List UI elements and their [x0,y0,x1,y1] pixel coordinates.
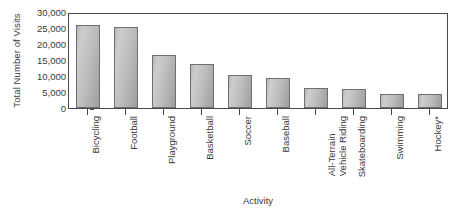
x-axis-category-label-line: Skateboarding [356,116,367,177]
x-axis-category-label: Playground [167,116,178,164]
bar-slot [411,14,449,108]
y-axis-tick-labels: 05,00010,00015,00020,00025,00030,000 [26,13,66,109]
x-axis-category-label: Skateboarding [357,116,368,177]
x-axis-tick-marks [68,109,448,115]
y-axis-tick-label: 0 [61,104,66,114]
x-axis-tick-mark [163,109,164,115]
x-axis-category-label-line: Basketball [204,116,215,160]
bar [190,64,214,108]
bar-slot [297,14,335,108]
x-axis-category-label: Swimming [395,116,406,160]
x-axis-category-label-line: Vehicle Riding [337,116,348,176]
bar [152,55,176,108]
x-axis-category-label: Hockey* [433,116,444,151]
bar [342,89,366,108]
x-axis-category-label: Soccer [243,116,254,146]
x-axis-category-label-line: Swimming [394,116,405,160]
bar [76,25,100,108]
x-axis-category-label-line: All-Terrain [326,133,337,176]
bar-slot [335,14,373,108]
x-axis-tick-mark [429,109,430,115]
x-axis-category-label: Baseball [281,116,292,152]
bar-slot [373,14,411,108]
bar [418,94,442,108]
bar-slot [107,14,145,108]
x-axis-tick-mark [239,109,240,115]
bar-chart: Total Number of Visits 05,00010,00015,00… [0,0,461,219]
x-axis-category-label-line: Soccer [242,116,253,146]
x-axis-category-label-line: Playground [166,116,177,164]
bar [114,27,138,108]
bar [228,75,252,108]
x-axis-category-label: Football [129,116,140,150]
x-axis-tick-mark [87,109,88,115]
x-axis-category-labels: BicyclingFootballPlaygroundBasketballSoc… [68,116,448,192]
x-axis-category-label: Bicycling [91,116,102,154]
x-axis-tick-mark [353,109,354,115]
bars-layer [69,14,447,108]
y-axis-tick-label: 25,000 [37,24,66,34]
x-axis-tick-mark [201,109,202,115]
bar [266,78,290,108]
y-axis-tick-label: 20,000 [37,40,66,50]
y-axis-tick-label: 30,000 [37,8,66,18]
y-axis-title: Total Number of Visits [11,1,22,121]
y-axis-tick-label: 10,000 [37,72,66,82]
bar-slot [145,14,183,108]
x-axis-tick-mark [125,109,126,115]
bar-slot [221,14,259,108]
x-axis-category-label: Basketball [205,116,216,160]
x-axis-category-label-line: Football [128,116,139,150]
y-axis-tick-label: 5,000 [42,88,66,98]
y-axis-tick-label: 15,000 [37,56,66,66]
x-axis-tick-mark [277,109,278,115]
x-axis-title: Activity [68,195,448,206]
bar-slot [69,14,107,108]
x-axis-category-label-line: Bicycling [90,116,101,154]
x-axis-category-label-line: Baseball [280,116,291,152]
x-axis-tick-mark [391,109,392,115]
bar [304,88,328,108]
x-axis-tick-mark [315,109,316,115]
plot-area [68,13,448,109]
x-axis-category-label: All-TerrainVehicle Riding [326,116,348,176]
bar-slot [259,14,297,108]
bar-slot [183,14,221,108]
bar [380,94,404,108]
x-axis-category-label-line: Hockey* [432,116,443,151]
